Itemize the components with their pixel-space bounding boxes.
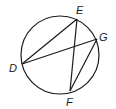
label-G: G	[99, 31, 108, 43]
segment-DE	[22, 19, 77, 64]
circle-chord-diagram: D E G F	[0, 0, 116, 109]
label-D: D	[9, 62, 17, 74]
label-F: F	[66, 96, 74, 108]
label-E: E	[76, 4, 84, 16]
